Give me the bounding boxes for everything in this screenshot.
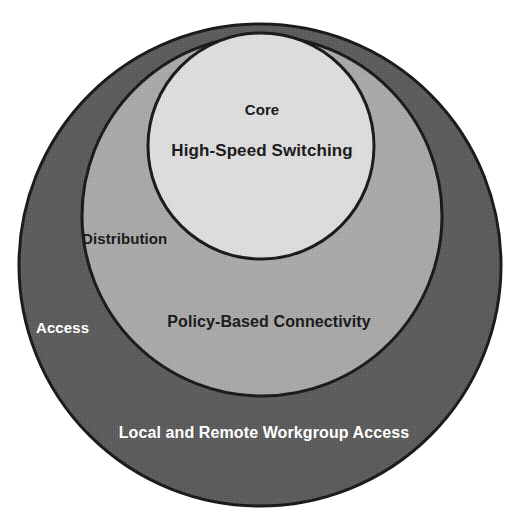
concentric-circles-graphic (0, 0, 518, 524)
access-layer-description: Local and Remote Workgroup Access (5, 424, 518, 442)
access-layer-label: Access (36, 319, 89, 336)
core-layer-label: Core (3, 101, 518, 118)
hierarchical-network-diagram: Core High-Speed Switching Distribution P… (0, 0, 518, 524)
distribution-layer-label: Distribution (82, 230, 167, 247)
core-layer-description: High-Speed Switching (3, 141, 518, 161)
